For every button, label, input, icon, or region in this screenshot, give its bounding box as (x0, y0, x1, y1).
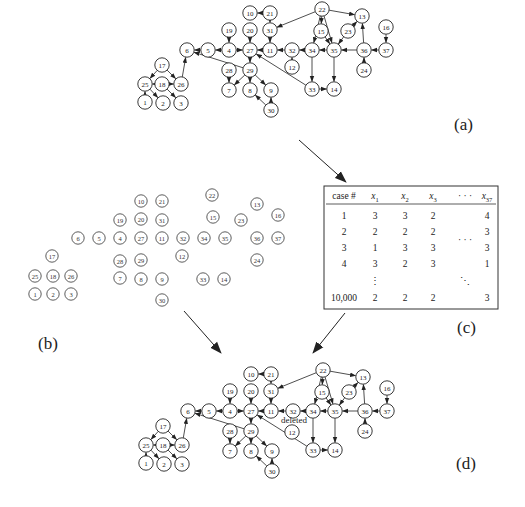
d-node-33: 33 (306, 443, 320, 457)
node-label: 5 (207, 408, 211, 416)
table-cell-r3-c2: 2 (403, 259, 408, 269)
table-header-4: · · · (458, 191, 472, 201)
a-node-30: 30 (264, 103, 278, 117)
b-node-14: 14 (218, 273, 230, 285)
table-cell-r5-c3: 2 (431, 293, 436, 303)
panel-label-c: (c) (457, 318, 476, 337)
b-node-29: 29 (135, 254, 147, 266)
panel-label-d: (d) (456, 454, 476, 473)
node-label: 16 (384, 385, 392, 393)
a-node-17: 17 (155, 58, 169, 72)
b-node-33: 33 (197, 273, 209, 285)
node-label: 6 (185, 47, 189, 55)
d-node-36: 36 (358, 404, 372, 418)
d-edge-30-to-8 (256, 456, 266, 466)
d-edge-36-to-13 (363, 385, 364, 404)
figure-canvas: 1234567891011121314151617181920212223242… (0, 0, 525, 507)
arrow-c-to-d (313, 313, 345, 353)
a-edge-36-to-13 (362, 24, 363, 43)
node-label: 36 (362, 408, 370, 416)
node-label: 24 (254, 257, 261, 264)
a-node-22: 22 (315, 2, 329, 16)
a-edge-22-to-31 (277, 12, 315, 28)
node-label: 10 (247, 10, 255, 18)
d-edge-18-to-3 (168, 450, 177, 459)
flow-arrows (184, 140, 346, 353)
node-label: 22 (209, 192, 216, 199)
node-label: 27 (247, 47, 255, 55)
node-label: 34 (310, 408, 318, 416)
node-label: 21 (159, 198, 166, 205)
b-node-24: 24 (251, 254, 263, 266)
b-node-1: 1 (29, 288, 41, 300)
node-label: 7 (227, 87, 231, 95)
node-label: 10 (248, 371, 256, 379)
a-edge-25-to-2 (150, 89, 158, 97)
b-node-20: 20 (135, 213, 147, 225)
d-node-17: 17 (156, 419, 170, 433)
b-node-22: 22 (206, 189, 218, 201)
node-label: 31 (159, 217, 166, 224)
node-label: 23 (346, 389, 354, 397)
a-node-19: 19 (222, 23, 236, 37)
node-label: 32 (289, 47, 297, 55)
a-node-35: 35 (327, 43, 341, 57)
b-node-18: 18 (47, 270, 59, 282)
b-node-32: 32 (177, 232, 189, 244)
node-label: 19 (117, 217, 124, 224)
a-node-25: 25 (138, 77, 152, 91)
a-node-23: 23 (341, 24, 355, 38)
node-label: 26 (178, 81, 186, 89)
d-node-21: 21 (264, 367, 278, 381)
node-label: 20 (138, 216, 145, 223)
d-node-20: 20 (244, 384, 258, 398)
panel-label-b: (b) (38, 334, 58, 353)
a-node-5: 5 (201, 43, 215, 57)
d-node-8: 8 (244, 444, 258, 458)
a-node-1: 1 (138, 95, 152, 109)
d-node-1: 1 (139, 456, 153, 470)
d-node-10: 10 (244, 367, 258, 381)
a-node-21: 21 (263, 6, 277, 20)
b-node-31: 31 (156, 214, 168, 226)
a-node-2: 2 (156, 96, 170, 110)
table-cell-r4-c4: ⋱ (460, 276, 470, 286)
node-label: 29 (248, 428, 256, 436)
d-edge-22-to-13 (330, 371, 356, 376)
node-label: 26 (179, 442, 187, 450)
node-label: 22 (319, 6, 327, 14)
node-label: 28 (226, 67, 234, 75)
node-label: 2 (51, 291, 54, 298)
a-node-36: 36 (357, 43, 371, 57)
b-node-35: 35 (219, 232, 231, 244)
a-node-4: 4 (222, 43, 236, 57)
a-node-34: 34 (305, 43, 319, 57)
node-label: 33 (310, 447, 318, 455)
node-label: 31 (267, 27, 275, 35)
a-edge-15-to-35 (325, 37, 330, 44)
node-label: 34 (309, 47, 317, 55)
d-edge-29-to-7 (235, 436, 245, 446)
a-node-16: 16 (379, 20, 393, 34)
node-label: 3 (180, 461, 184, 469)
d-node-5: 5 (202, 404, 216, 418)
b-node-9: 9 (156, 273, 168, 285)
node-label: 33 (200, 276, 207, 283)
node-label: 5 (97, 235, 100, 242)
table-cell-r2-c1: 1 (373, 243, 378, 253)
d-node-6: 6 (181, 404, 195, 418)
a-node-32: 32 (285, 43, 299, 57)
table-cell-r1-c2: 2 (403, 227, 408, 237)
a-edge-17-to-26 (167, 70, 176, 79)
node-label: 24 (361, 67, 369, 75)
node-label: 1 (143, 99, 147, 107)
b-node-4: 4 (114, 232, 126, 244)
a-node-13: 13 (355, 9, 369, 23)
b-node-25: 25 (29, 270, 41, 282)
node-label: 12 (289, 64, 297, 72)
node-label: 35 (331, 47, 339, 55)
node-label: 15 (319, 389, 327, 397)
table-cell-r0-c2: 3 (403, 211, 408, 221)
b-node-36: 36 (251, 232, 263, 244)
b-node-26: 26 (65, 270, 77, 282)
